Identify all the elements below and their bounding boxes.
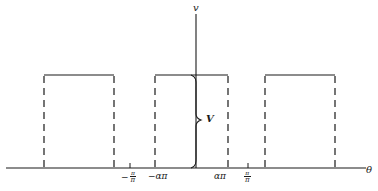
y-axis-label: v <box>193 3 199 13</box>
x-axis-label: θ <box>366 165 372 175</box>
fraction-denominator: π <box>130 176 137 184</box>
fraction-denominator: π <box>244 176 251 184</box>
tick-minus-sign: − <box>121 172 129 182</box>
tick-label-alpha-pi: απ <box>214 172 226 181</box>
tick-label-pi: π π <box>244 170 251 184</box>
tick-label-neg-pi: − π π <box>121 170 136 184</box>
pulse-train-figure: v θ V − π π −απ απ π π <box>0 0 378 191</box>
tick-fraction-neg-pi: π π <box>130 170 137 184</box>
amplitude-label: V <box>206 114 214 124</box>
tick-label-neg-alpha-pi: −απ <box>148 172 168 181</box>
tick-fraction-pi: π π <box>244 170 251 184</box>
figure-canvas <box>0 0 378 191</box>
